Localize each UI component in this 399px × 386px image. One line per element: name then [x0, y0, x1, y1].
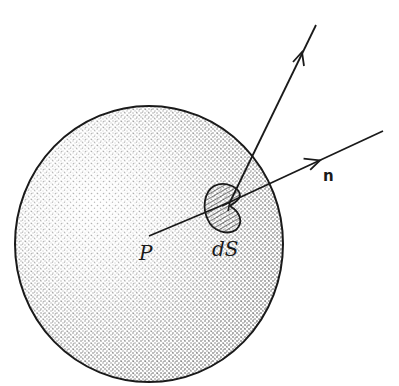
label-surface-element-ds: dS: [212, 237, 239, 261]
label-normal-n: n: [323, 167, 334, 185]
sphere-flux-diagram: P dS n: [0, 0, 399, 386]
outgoing-ray: [230, 25, 316, 202]
label-point-p: P: [138, 241, 153, 265]
